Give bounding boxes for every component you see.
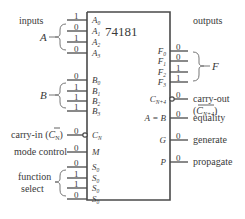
left-pins: 1A00A11A20A30B01B11B21B30CN0M0S01S01S00S…: [67, 11, 102, 206]
chip-name: 74181: [105, 24, 138, 39]
pin-value: 0: [176, 131, 181, 141]
pin-value: 1: [74, 179, 79, 189]
function-select-brace: [55, 170, 66, 196]
b-brace: [55, 83, 66, 108]
outputs-header: outputs: [193, 15, 223, 26]
pin-label: A = B: [144, 113, 167, 123]
propagate-label: propagate: [193, 156, 233, 167]
pin-label: CN: [92, 130, 102, 141]
pin-label: A2: [91, 37, 101, 48]
pin-label: A0: [91, 15, 101, 26]
pin-value: 1: [74, 102, 79, 112]
inverter-bubble-icon: [83, 133, 87, 137]
pin-value: 1: [176, 63, 181, 73]
output-pin-G: 0G: [160, 131, 189, 146]
inverter-bubble-icon: [170, 97, 174, 101]
pin-value: 0: [176, 109, 181, 119]
output-pin-CN4: 0CN+4: [150, 90, 188, 106]
pin-value: 0: [74, 143, 79, 153]
pin-label: F3: [157, 77, 167, 88]
f-brace: [193, 52, 204, 81]
alu-74181-diagram: 74181 inputs outputs 1A00A11A20A30B01B11…: [0, 0, 245, 219]
pin-value: 0: [176, 90, 181, 100]
pin-value: 0: [176, 153, 181, 163]
a-brace: [55, 24, 66, 50]
pin-label: F1: [157, 56, 167, 67]
carry-out-label: carry-out: [193, 93, 230, 104]
pin-label: S0: [92, 194, 100, 205]
function-select-label-1: function: [18, 171, 51, 182]
mode-control-label: mode control: [14, 146, 67, 157]
carry-in-label: carry-in (CN): [11, 129, 63, 141]
group-b-label: B: [40, 89, 47, 101]
pin-label: M: [91, 147, 100, 157]
function-select-label-2: select: [21, 183, 44, 194]
pin-label: CN+4: [150, 94, 166, 105]
pin-value: 0: [74, 190, 79, 200]
input-pin-A0: 1A0: [67, 11, 101, 27]
generate-label: generate: [193, 134, 227, 145]
pin-value: 0: [74, 158, 79, 168]
pin-label: G: [160, 135, 167, 145]
pin-value: 0: [176, 42, 181, 52]
pin-label: B3: [92, 106, 101, 117]
pin-value: 0: [74, 44, 79, 54]
pin-value: 1: [74, 92, 79, 102]
right-pins: 0F00F11F21F30CN+40A = B0G0P: [144, 42, 188, 168]
pin-label: A1: [91, 26, 101, 37]
equality-label: equality: [193, 112, 225, 123]
pin-label: P: [160, 157, 167, 167]
pin-value: 0: [74, 22, 79, 32]
pin-label: S0: [92, 183, 100, 194]
output-pin-AeqB: 0A = B: [144, 109, 188, 124]
pin-label: A3: [91, 48, 101, 59]
pin-value: 1: [176, 73, 181, 83]
group-a-label: A: [39, 31, 47, 43]
pin-value: 1: [74, 11, 79, 21]
pin-value: 1: [74, 169, 79, 179]
input-pin-B0: 0B0: [67, 71, 101, 87]
output-pin-P: 0P: [160, 153, 189, 168]
group-f-label: F: [211, 60, 219, 72]
output-pin-F0: 0F0: [157, 42, 188, 58]
input-pin-S0a: 0S0: [67, 158, 100, 174]
inputs-header: inputs: [19, 15, 44, 26]
input-pin-CN: 0CN: [67, 126, 102, 142]
input-pin-M: 0M: [67, 143, 100, 158]
pin-value: 1: [74, 33, 79, 43]
pin-label: S0: [92, 162, 100, 173]
pin-label: B0: [92, 75, 101, 86]
pin-value: 0: [74, 126, 79, 136]
pin-value: 1: [74, 82, 79, 92]
pin-value: 0: [74, 71, 79, 81]
pin-value: 0: [176, 52, 181, 62]
